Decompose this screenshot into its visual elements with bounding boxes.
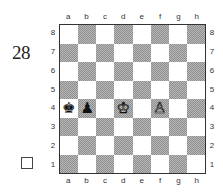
square-e3 [133,118,151,137]
file-label-b: b [78,12,96,21]
rank-label-1: 1 [208,160,216,170]
file-label-b: b [78,176,96,185]
side-to-move-box [21,157,33,169]
file-label-f: f [151,176,169,185]
rank-label-1: 1 [49,160,57,170]
square-a3 [60,118,78,137]
square-f7 [151,44,169,63]
square-d6 [114,62,132,81]
square-c8 [96,25,114,44]
file-label-h: h [188,12,206,21]
square-g3 [169,118,187,137]
square-c1 [96,155,114,174]
file-label-c: c [96,176,114,185]
square-e8 [133,25,151,44]
problem-number: 28 [12,42,30,64]
square-b8 [78,25,96,44]
white-king-icon: ♔ [117,101,130,116]
square-b1 [78,155,96,174]
rank-label-3: 3 [49,122,57,132]
file-label-c: c [96,12,114,21]
square-h3 [187,118,205,137]
square-h4 [187,99,205,118]
file-label-d: d [114,176,132,185]
square-a2 [60,136,78,155]
rank-label-4: 4 [49,103,57,113]
square-a4: ♚ [60,99,78,118]
rank-label-8: 8 [49,28,57,38]
rank-label-6: 6 [49,66,57,76]
rank-label-4: 4 [208,103,216,113]
square-g1 [169,155,187,174]
white-pawn-icon: ♙ [153,101,166,116]
square-g4 [169,99,187,118]
square-d8 [114,25,132,44]
square-c6 [96,62,114,81]
square-f5 [151,81,169,100]
rank-label-5: 5 [49,85,57,95]
square-h5 [187,81,205,100]
square-h2 [187,136,205,155]
square-d4: ♔ [114,99,132,118]
file-label-g: g [169,12,187,21]
rank-label-3: 3 [208,122,216,132]
square-g7 [169,44,187,63]
square-a1 [60,155,78,174]
square-d3 [114,118,132,137]
square-e6 [133,62,151,81]
file-label-a: a [59,12,77,21]
square-a7 [60,44,78,63]
file-label-d: d [114,12,132,21]
rank-label-6: 6 [208,66,216,76]
file-label-a: a [59,176,77,185]
file-label-g: g [169,176,187,185]
square-f1 [151,155,169,174]
chess-board: ♚♟♔♙ [59,24,206,174]
square-d5 [114,81,132,100]
file-label-h: h [188,176,206,185]
file-label-f: f [151,12,169,21]
square-f2 [151,136,169,155]
square-e4 [133,99,151,118]
square-h1 [187,155,205,174]
square-f6 [151,62,169,81]
square-c5 [96,81,114,100]
square-g6 [169,62,187,81]
rank-label-8: 8 [208,28,216,38]
square-h7 [187,44,205,63]
square-b3 [78,118,96,137]
black-king-icon: ♚ [62,101,75,116]
square-d2 [114,136,132,155]
square-c2 [96,136,114,155]
square-b6 [78,62,96,81]
square-e5 [133,81,151,100]
square-g2 [169,136,187,155]
square-f3 [151,118,169,137]
rank-label-2: 2 [49,141,57,151]
rank-label-7: 7 [208,47,216,57]
file-label-e: e [133,12,151,21]
square-f4: ♙ [151,99,169,118]
square-e1 [133,155,151,174]
square-c7 [96,44,114,63]
square-g8 [169,25,187,44]
square-c4 [96,99,114,118]
square-f8 [151,25,169,44]
rank-label-7: 7 [49,47,57,57]
square-b4: ♟ [78,99,96,118]
square-b2 [78,136,96,155]
square-b7 [78,44,96,63]
rank-label-2: 2 [208,141,216,151]
square-g5 [169,81,187,100]
square-a5 [60,81,78,100]
square-a6 [60,62,78,81]
rank-label-5: 5 [208,85,216,95]
square-e7 [133,44,151,63]
square-e2 [133,136,151,155]
square-d7 [114,44,132,63]
file-label-e: e [133,176,151,185]
square-h8 [187,25,205,44]
black-pawn-icon: ♟ [80,101,93,116]
square-d1 [114,155,132,174]
square-c3 [96,118,114,137]
